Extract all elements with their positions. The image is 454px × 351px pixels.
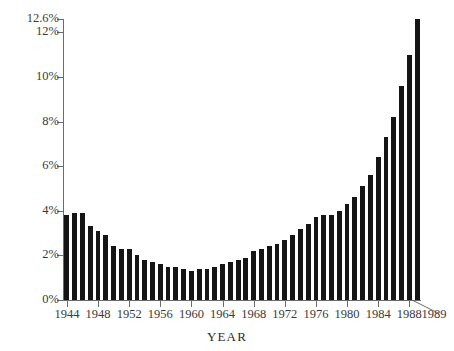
bar: [329, 215, 334, 300]
bar: [275, 244, 280, 300]
y-tick-label: 0%: [42, 293, 59, 305]
bar: [173, 267, 178, 300]
plot-area: 12.6%12%10%8%6%4%2%0% 194419481952195619…: [0, 0, 454, 351]
bar: [96, 231, 101, 300]
x-tick-label: 1980: [335, 307, 360, 321]
y-tick-label: 2%: [42, 248, 59, 260]
bar: [399, 86, 404, 300]
x-tick-label: 1968: [241, 307, 266, 321]
bar: [189, 271, 194, 300]
bar-chart-figure: 12.6%12%10%8%6%4%2%0% 194419481952195619…: [0, 0, 454, 351]
y-tick-label: 8%: [42, 115, 59, 127]
leader-line-1989: [412, 300, 442, 314]
bar: [360, 186, 365, 300]
bar: [306, 224, 311, 300]
bar: [407, 55, 412, 300]
x-tick-label: 1976: [303, 307, 328, 321]
bar: [251, 251, 256, 300]
bar: [290, 235, 295, 300]
bar: [64, 215, 69, 300]
x-tick-label: 1948: [86, 307, 111, 321]
bar: [127, 249, 132, 300]
bar: [142, 260, 147, 300]
bar: [228, 262, 233, 300]
bar-series: [63, 19, 421, 300]
bar: [415, 19, 420, 300]
bar: [282, 240, 287, 300]
bar: [243, 258, 248, 300]
bar: [111, 246, 116, 300]
bar: [236, 260, 241, 300]
x-tick-label: 1956: [148, 307, 173, 321]
bar: [220, 264, 225, 300]
y-tick-label: 4%: [42, 204, 59, 216]
y-tick-label: 6%: [42, 159, 59, 171]
bar: [391, 117, 396, 300]
y-tick-label: 12%: [36, 25, 59, 37]
bar: [259, 249, 264, 300]
bar: [384, 137, 389, 300]
bar: [314, 217, 319, 300]
bar: [72, 213, 77, 300]
x-tick-label: 1952: [117, 307, 142, 321]
bar: [205, 269, 210, 300]
bar: [150, 262, 155, 300]
bar: [321, 215, 326, 300]
bar: [298, 229, 303, 300]
x-tick-label: 1984: [366, 307, 391, 321]
x-tick-label: 1972: [272, 307, 297, 321]
bar: [352, 197, 357, 300]
bar: [181, 269, 186, 300]
bar: [80, 213, 85, 300]
bar: [212, 267, 217, 300]
bar: [119, 249, 124, 300]
bar: [345, 204, 350, 300]
bar: [88, 226, 93, 300]
x-axis-title: YEAR: [0, 329, 454, 345]
bar: [376, 157, 381, 300]
bar: [267, 246, 272, 300]
bar: [158, 264, 163, 300]
bar: [337, 211, 342, 300]
x-tick-label: 1944: [54, 307, 79, 321]
y-tick-label: 10%: [36, 70, 59, 82]
bar: [166, 267, 171, 300]
x-tick-label: 1964: [210, 307, 235, 321]
y-tick-label: 12.6%: [27, 12, 59, 24]
bar: [368, 175, 373, 300]
bar: [135, 255, 140, 300]
x-axis-line: [63, 300, 421, 301]
x-tick-label: 1960: [179, 307, 204, 321]
bar: [197, 269, 202, 300]
bar: [103, 235, 108, 300]
